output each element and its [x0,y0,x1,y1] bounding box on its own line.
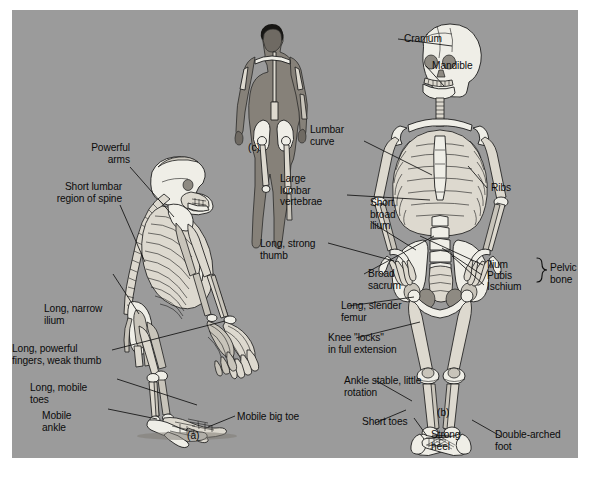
label-ischium: Ischium [487,281,521,293]
label-knee-locks: Knee "locks" in full extension [328,332,438,355]
walking-figure-c [235,24,307,248]
pelvic-bone-bracket [537,258,547,282]
label-long-narrow-ilium: Long, narrow ilium [44,303,154,326]
label-cranium: Cranium [404,33,442,45]
label-pelvic-bone: Pelvic bone [550,262,578,285]
label-ankle-stable: Ankle stable, little rotation [344,375,464,398]
label-strong-heel: Strong heel [431,429,487,452]
label-long-slender-femur: Long, slender femur [341,300,433,323]
label-short-lumbar-region: Short lumbar region of spine [12,181,122,204]
label-double-arched-foot: Double-arched foot [495,429,578,452]
panel-letter-b: (b) [437,407,449,418]
label-long-powerful-fingers: Long, powerful fingers, weak thumb [12,343,142,366]
label-lumbar-curve: Lumbar curve [310,124,372,147]
label-large-lumbar-vertebrae: Large lumbar vertebrae [280,173,350,208]
label-mobile-big-toe: Mobile big toe [237,411,347,423]
label-short-toes: Short toes [362,416,442,428]
panel-letter-a: (a) [187,430,199,441]
panel-letter-c: (c) [248,142,260,153]
label-short-broad-ilium: Short, broad ilium [370,197,426,232]
human-lumbar-spine [430,216,451,274]
label-powerful-arms: Powerful arms [42,142,130,165]
label-pubis: Pubis [487,270,512,282]
label-mandible: Mandible [432,60,473,72]
label-long-strong-thumb: Long, strong thumb [260,238,338,261]
label-broad-sacrum: Broad sacrum [368,268,434,291]
figure-panel: Powerful arms Short lumbar region of spi… [12,10,578,458]
label-ilium: Ilium [487,259,508,271]
leader-mobile-big-toe [208,416,235,427]
label-mobile-ankle: Mobile ankle [42,410,122,433]
label-ribs: Ribs [491,182,511,194]
label-long-mobile-toes: Long, mobile toes [30,382,130,405]
